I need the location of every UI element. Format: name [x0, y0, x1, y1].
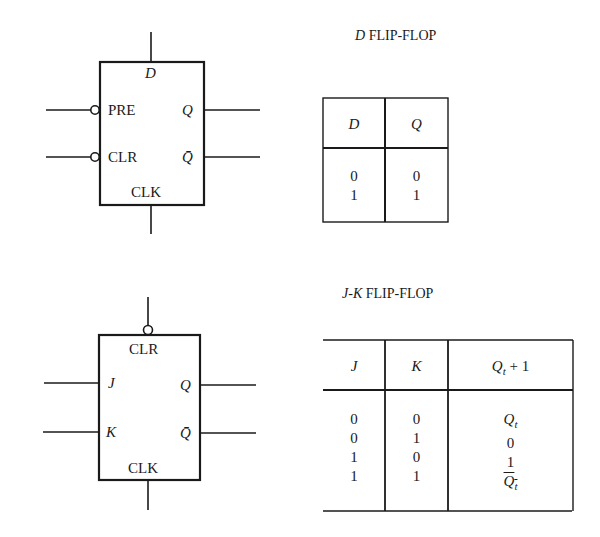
- jk-table-column-k: 0 1 0 1: [385, 410, 448, 486]
- d-table-column-d: 0 1: [323, 167, 385, 205]
- jk-title-var: J-K: [342, 286, 362, 301]
- table-cell: 1: [448, 453, 573, 472]
- table-cell: 1: [323, 186, 385, 205]
- d-q-label: Q: [182, 103, 193, 118]
- jk-title-text: FLIP-FLOP: [366, 286, 434, 301]
- table-cell: 0: [323, 410, 385, 429]
- table-cell: 1: [323, 467, 385, 486]
- d-pre-label: PRE: [108, 103, 136, 118]
- d-qbar-label: Q̄: [182, 150, 193, 165]
- table-cell: 1: [385, 467, 448, 486]
- table-cell: 0: [448, 434, 573, 453]
- jk-table-header-k: K: [385, 359, 448, 374]
- table-cell: 0: [323, 429, 385, 448]
- d-title-text: FLIP-FLOP: [369, 28, 437, 43]
- d-table-header-q: Q: [385, 117, 448, 132]
- jk-table-column-j: 0 0 1 1: [323, 410, 385, 486]
- jk-clr-label: CLR: [129, 342, 158, 357]
- table-cell: 1: [323, 448, 385, 467]
- jk-k-label: K: [106, 425, 116, 440]
- d-input-label: D: [145, 66, 156, 81]
- table-cell: 0: [385, 167, 448, 186]
- jk-q-label: Q: [180, 378, 191, 393]
- jk-table-header-j: J: [323, 359, 385, 374]
- jk-clr-inversion-bubble: [144, 326, 153, 335]
- d-clk-label: CLK: [131, 185, 161, 200]
- next-state-q-symbol: Qt: [492, 358, 506, 374]
- d-title-var: D: [355, 28, 365, 43]
- d-clr-inversion-bubble: [91, 153, 99, 161]
- jk-table-column-next-state: Qt 0 1 Qt: [448, 410, 573, 496]
- jk-table-header-next-state: Qt + 1: [448, 359, 573, 377]
- d-flipflop-title: D FLIP-FLOP: [355, 29, 436, 43]
- table-cell: 0: [323, 167, 385, 186]
- d-table-header-d: D: [323, 117, 385, 132]
- jk-clk-label: CLK: [128, 461, 158, 476]
- jk-j-label: J: [108, 376, 115, 391]
- table-cell: 1: [385, 186, 448, 205]
- table-cell: 0: [385, 448, 448, 467]
- jk-qbar-label: Q̄: [180, 426, 191, 441]
- jk-flipflop-title: J-K FLIP-FLOP: [342, 287, 433, 301]
- table-cell-hold: Qt: [448, 410, 573, 434]
- table-cell: 1: [385, 429, 448, 448]
- table-cell: 0: [385, 410, 448, 429]
- table-cell-toggle: Qt: [448, 472, 573, 496]
- d-pre-inversion-bubble: [91, 106, 99, 114]
- d-clr-label: CLR: [108, 150, 137, 165]
- d-table-column-q: 0 1: [385, 167, 448, 205]
